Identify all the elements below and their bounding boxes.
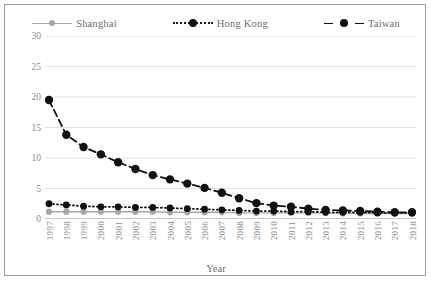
data-point [304,204,312,212]
data-point [80,203,87,210]
x-axis-tick-label: 2011 [287,221,297,240]
data-point [218,206,225,213]
y-axis-tick-label: 10 [15,153,41,163]
data-point [270,201,278,209]
data-point [200,184,208,192]
data-point [114,158,122,166]
x-axis-tick-label: 2010 [269,221,279,240]
x-axis-tick-label: 1998 [62,221,72,240]
y-axis-tick-label: 20 [15,92,41,102]
x-axis-labels: 1997199819992000200120022003200420052006… [45,221,416,261]
x-axis-tick-label: 2002 [131,221,141,240]
x-axis-tick-label: 2007 [217,221,227,240]
x-axis-tick-label: 2013 [321,221,331,240]
data-point [183,179,191,187]
data-point [46,200,53,207]
data-point [131,165,139,173]
data-point [321,206,329,214]
x-axis-title: Year [5,263,427,274]
legend-marker-shanghai-icon [32,17,72,29]
y-axis-tick-label: 0 [15,214,41,224]
data-point [97,150,105,158]
data-point [373,207,381,215]
legend-label-hong-kong: Hong Kong [217,18,268,29]
data-point [46,209,52,215]
data-point [235,194,243,202]
legend-marker-taiwan-icon [324,17,364,29]
data-point [391,208,399,216]
y-axis-tick-label: 15 [15,123,41,133]
data-point [132,204,139,211]
y-axis-tick-label: 5 [15,184,41,194]
data-point [218,189,226,197]
data-point [252,199,260,207]
legend-label-shanghai: Shanghai [76,18,117,29]
x-axis-tick-label: 2001 [114,221,124,240]
x-axis-tick-label: 2006 [200,221,210,240]
data-point [62,131,70,139]
x-axis-tick-label: 2000 [96,221,106,240]
data-point [356,207,364,215]
data-point [184,205,191,212]
data-point [149,171,157,179]
legend-label-taiwan: Taiwan [368,18,400,29]
chart-legend: Shanghai Hong Kong Taiwan [5,13,427,33]
data-point [201,206,208,213]
data-point [236,207,243,214]
legend-item-shanghai: Shanghai [32,17,117,29]
data-point [149,204,156,211]
data-point [408,208,416,216]
x-axis-tick-label: 2004 [166,221,176,240]
data-point [63,209,69,215]
data-point [45,96,53,104]
x-axis-tick-label: 1997 [45,221,55,240]
legend-marker-hong-kong-icon [173,17,213,29]
data-point [63,202,70,209]
data-point [97,203,104,210]
data-point [167,205,174,212]
y-axis-tick-label: 30 [15,31,41,41]
x-axis-tick-label: 2017 [390,221,400,240]
x-axis-tick-label: 2015 [356,221,366,240]
y-axis-tick-label: 25 [15,62,41,72]
x-axis-tick-label: 2018 [408,221,418,240]
data-point [166,175,174,183]
x-axis-tick-label: 2008 [235,221,245,240]
x-axis-tick-label: 2005 [183,221,193,240]
legend-item-hong-kong: Hong Kong [173,17,268,29]
plot-area [45,36,416,219]
legend-item-taiwan: Taiwan [324,17,400,29]
data-point [115,203,122,210]
data-point [253,208,260,215]
x-axis-tick-label: 1999 [79,221,89,240]
y-axis-labels: 051015202530 [13,36,41,219]
x-axis-tick-label: 2012 [304,221,314,240]
x-axis-tick-label: 2003 [148,221,158,240]
x-axis-tick-label: 2016 [373,221,383,240]
chart-svg [45,36,416,219]
x-axis-tick-label: 2009 [252,221,262,240]
data-point [287,203,295,211]
data-point [79,143,87,151]
x-axis-tick-label: 2014 [338,221,348,240]
data-point [339,206,347,214]
chart-frame: Shanghai Hong Kong Taiwan 051015202530 1… [4,4,426,276]
